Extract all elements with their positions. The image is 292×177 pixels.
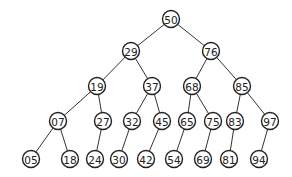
- tree-nodes: 5029761937688507273245657583970518243042…: [23, 11, 279, 168]
- node-label: 83: [228, 116, 241, 128]
- tree-node-18: 18: [62, 151, 79, 168]
- node-label: 45: [155, 116, 168, 128]
- edge-37-32: [136, 93, 148, 113]
- node-label: 42: [139, 154, 152, 166]
- tree-node-97: 97: [262, 113, 279, 130]
- tree-node-81: 81: [221, 151, 238, 168]
- node-label: 54: [167, 154, 181, 166]
- node-label: 65: [180, 116, 193, 128]
- node-label: 97: [263, 116, 276, 128]
- node-label: 18: [63, 154, 76, 166]
- node-label: 85: [235, 81, 248, 93]
- node-label: 50: [164, 14, 177, 26]
- tree-node-37: 37: [144, 78, 161, 95]
- tree-node-45: 45: [154, 113, 171, 130]
- tree-node-69: 69: [195, 151, 212, 168]
- edge-83-81: [230, 129, 233, 150]
- node-label: 05: [24, 154, 37, 166]
- node-label: 37: [145, 81, 158, 93]
- tree-node-50: 50: [163, 11, 180, 28]
- node-label: 30: [112, 154, 125, 166]
- tree-node-54: 54: [166, 151, 183, 168]
- node-label: 76: [204, 46, 218, 58]
- edge-19-07: [64, 92, 90, 116]
- node-label: 07: [51, 116, 64, 128]
- edge-29-19: [103, 57, 125, 80]
- tree-node-29: 29: [123, 43, 140, 60]
- node-label: 27: [96, 116, 109, 128]
- node-label: 68: [185, 81, 198, 93]
- tree-node-07: 07: [50, 113, 67, 130]
- node-label: 81: [222, 154, 235, 166]
- tree-node-68: 68: [184, 78, 201, 95]
- edge-85-97: [247, 93, 264, 115]
- edge-37-45: [154, 94, 159, 113]
- node-label: 19: [90, 81, 103, 93]
- tree-node-76: 76: [203, 43, 220, 60]
- tree-node-94: 94: [251, 151, 268, 168]
- edge-76-85: [217, 57, 237, 79]
- edge-50-76: [178, 24, 205, 45]
- node-label: 24: [88, 154, 102, 166]
- tree-node-65: 65: [179, 113, 196, 130]
- edge-75-69: [205, 129, 211, 151]
- edge-07-18: [61, 129, 68, 151]
- tree-node-05: 05: [23, 151, 40, 168]
- node-label: 69: [196, 154, 209, 166]
- tree-node-42: 42: [138, 151, 155, 168]
- tree-node-32: 32: [124, 113, 141, 130]
- edge-65-54: [177, 129, 185, 151]
- edge-27-24: [97, 129, 102, 150]
- node-label: 94: [252, 154, 266, 166]
- node-label: 75: [206, 116, 219, 128]
- tree-node-27: 27: [95, 113, 112, 130]
- edge-68-75: [196, 93, 208, 113]
- tree-node-83: 83: [227, 113, 244, 130]
- edge-85-83: [237, 94, 241, 112]
- edge-45-42: [149, 129, 158, 151]
- edge-68-65: [188, 94, 191, 112]
- edge-97-94: [261, 129, 267, 151]
- edge-19-27: [98, 94, 101, 112]
- binary-tree-diagram: 5029761937688507273245657583970518243042…: [0, 0, 292, 177]
- edge-29-37: [135, 58, 147, 78]
- tree-node-75: 75: [205, 113, 222, 130]
- edge-07-05: [36, 128, 53, 152]
- tree-node-85: 85: [234, 78, 251, 95]
- edge-50-29: [138, 24, 165, 45]
- node-label: 29: [124, 46, 137, 58]
- node-label: 32: [125, 116, 138, 128]
- tree-node-30: 30: [111, 151, 128, 168]
- tree-node-24: 24: [87, 151, 104, 168]
- edge-32-30: [122, 129, 130, 151]
- edge-76-68: [196, 58, 207, 78]
- tree-node-19: 19: [89, 78, 106, 95]
